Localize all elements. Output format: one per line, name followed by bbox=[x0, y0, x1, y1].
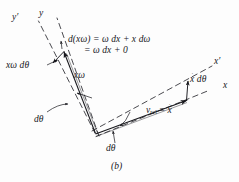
x-omega-dtheta-leader bbox=[47, 60, 58, 65]
v-rel-overdot-mark: ˙ bbox=[169, 103, 171, 110]
x-omega-vector-shadow bbox=[67, 54, 99, 135]
differential-equation: d(xω) = ω dx + x dω = ω dx + 0 bbox=[68, 34, 150, 55]
v-rel-vector-line bbox=[96, 101, 187, 135]
v-rel-equals: = bbox=[157, 105, 167, 115]
xdot-dtheta-tail: dθ bbox=[194, 74, 206, 84]
label-x-omega-dtheta: xω dθ bbox=[6, 60, 29, 71]
dtheta-bottom-leader bbox=[113, 131, 115, 143]
label-dtheta-bottom: dθ bbox=[106, 143, 116, 154]
dtheta-left-arc bbox=[47, 104, 68, 112]
x-omega-leader bbox=[77, 93, 92, 98]
equation-line-1: d(xω) = ω dx + x dω bbox=[68, 34, 150, 45]
equation-line-2: = ω dx + 0 bbox=[68, 45, 150, 56]
v-rel-vector-shadow bbox=[96, 103, 187, 137]
xdot-glyph: x˙ bbox=[190, 74, 194, 85]
label-v-rel: vrel = x˙ bbox=[146, 105, 172, 116]
figure-caption: (b) bbox=[111, 161, 122, 172]
axis-label-y: y bbox=[39, 8, 43, 19]
label-x-omega: xω bbox=[74, 70, 85, 81]
figure-panel: y′ y x′ x d(xω) = ω dx + x dω = ω dx + 0… bbox=[0, 0, 239, 182]
x-omega-vector-line bbox=[64, 52, 96, 134]
axis-label-x-prime: x′ bbox=[214, 56, 221, 67]
xdot-dtheta-segment-line bbox=[187, 81, 189, 101]
v-rel-subscript: rel bbox=[150, 108, 157, 115]
label-xdot-dtheta: x˙ dθ bbox=[190, 74, 206, 85]
axis-label-x: x bbox=[223, 80, 227, 91]
overdot-mark: ˙ bbox=[191, 72, 193, 79]
v-rel-xdot-glyph: x˙ bbox=[167, 105, 171, 116]
label-dtheta-left: dθ bbox=[34, 114, 44, 125]
diagram-canvas bbox=[0, 0, 239, 182]
axis-label-y-prime: y′ bbox=[12, 12, 19, 23]
equation-leader bbox=[61, 41, 62, 49]
